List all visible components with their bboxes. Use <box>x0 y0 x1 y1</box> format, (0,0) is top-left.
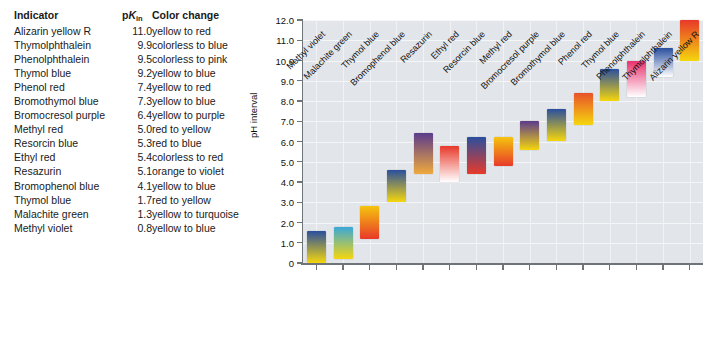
y-axis-tick <box>297 19 303 20</box>
y-axis-tick-label: 2.0 <box>281 217 294 228</box>
y-axis-tick <box>297 40 303 41</box>
cell-pka: 7.4 <box>122 82 152 96</box>
cell-color-change: colorless to red <box>152 152 239 166</box>
cell-color-change: yellow to purple <box>152 110 239 124</box>
table-row: Resazurin5.1orange to violet <box>14 166 239 180</box>
cell-color-change: red to blue <box>152 138 239 152</box>
cell-indicator: Alizarin yellow R <box>14 26 122 40</box>
cell-color-change: yellow to blue <box>152 96 239 110</box>
cell-indicator: Bromothymol blue <box>14 96 122 110</box>
pk-k-italic: K <box>128 9 136 21</box>
cell-indicator: Thymol blue <box>14 195 122 209</box>
chart-bar <box>574 93 593 125</box>
pk-subscript: in <box>136 14 143 23</box>
chart-bar <box>520 121 539 149</box>
x-axis-tick <box>476 263 477 270</box>
x-axis-tick <box>342 263 343 270</box>
x-axis-tick <box>556 263 557 270</box>
table-row: Phenolphthalein9.5colorless to pink <box>14 54 239 68</box>
cell-pka: 11.0 <box>122 26 152 40</box>
cell-indicator: Resorcin blue <box>14 138 122 152</box>
x-axis-tick <box>662 263 663 270</box>
vertical-gridline <box>583 20 584 263</box>
x-axis-tick <box>636 263 637 270</box>
cell-indicator: Bromophenol blue <box>14 181 122 195</box>
table-row: Resorcin blue5.3red to blue <box>14 138 239 152</box>
y-axis-tick-label: 1.0 <box>281 237 294 248</box>
table-row: Thymol blue1.7red to yellow <box>14 195 239 209</box>
chart-bar <box>440 146 459 182</box>
cell-pka: 5.3 <box>122 138 152 152</box>
table-row: Ethyl red5.4colorless to red <box>14 152 239 166</box>
y-axis-tick-label: 4.0 <box>281 177 294 188</box>
cell-pka: 5.4 <box>122 152 152 166</box>
column-header-color-change: Color change <box>152 10 239 26</box>
cell-indicator: Malachite green <box>14 209 122 223</box>
table-row: Alizarin yellow R11.0yellow to red <box>14 26 239 40</box>
indicator-table: Indicator pKin Color change Alizarin yel… <box>14 10 276 237</box>
table-row: Methyl violet0.8yellow to blue <box>14 223 239 237</box>
chart-bar <box>307 231 326 263</box>
indicator-data-table: Indicator pKin Color change Alizarin yel… <box>14 10 239 237</box>
cell-color-change: yellow to blue <box>152 68 239 82</box>
y-axis-tick <box>297 242 303 243</box>
cell-color-change: yellow to red <box>152 26 239 40</box>
table-body: Alizarin yellow R11.0yellow to redThymol… <box>14 26 239 237</box>
y-axis-tick-label: 5.0 <box>281 156 294 167</box>
chart-bar <box>387 170 406 202</box>
table-header-row: Indicator pKin Color change <box>14 10 239 26</box>
y-axis-tick <box>297 141 303 142</box>
cell-indicator: Bromocresol purple <box>14 110 122 124</box>
y-axis-tick <box>297 222 303 223</box>
cell-indicator: Methyl red <box>14 124 122 138</box>
plot-area: 01.02.03.04.05.06.07.08.09.010.011.012.0… <box>302 20 703 263</box>
y-axis-tick-label: 8.0 <box>281 96 294 107</box>
table-row: Bromophenol blue4.1yellow to blue <box>14 181 239 195</box>
x-axis-tick <box>529 263 530 270</box>
chart-bar <box>360 206 379 238</box>
y-axis-tick-label: 3.0 <box>281 197 294 208</box>
x-axis-tick <box>396 263 397 270</box>
table-row: Phenol red7.4yellow to red <box>14 82 239 96</box>
x-axis-tick <box>609 263 610 270</box>
cell-color-change: colorless to blue <box>152 40 239 54</box>
table-row: Bromocresol purple6.4yellow to purple <box>14 110 239 124</box>
vertical-gridline <box>396 20 397 263</box>
cell-pka: 9.9 <box>122 40 152 54</box>
cell-pka: 5.0 <box>122 124 152 138</box>
y-axis-tick-label: 7.0 <box>281 116 294 127</box>
cell-indicator: Thymolphthalein <box>14 40 122 54</box>
cell-indicator: Methyl violet <box>14 223 122 237</box>
cell-pka: 7.3 <box>122 96 152 110</box>
x-axis-tick <box>422 263 423 270</box>
table-row: Bromothymol blue7.3yellow to blue <box>14 96 239 110</box>
x-axis-tick <box>316 263 317 270</box>
cell-pka: 9.5 <box>122 54 152 68</box>
table-row: Thymol blue9.2yellow to blue <box>14 68 239 82</box>
chart-bar <box>414 133 433 174</box>
cell-color-change: yellow to blue <box>152 181 239 195</box>
table-row: Thymolphthalein9.9colorless to blue <box>14 40 239 54</box>
ph-interval-chart: pH interval 01.02.03.04.05.06.07.08.09.0… <box>252 6 716 350</box>
cell-color-change: yellow to blue <box>152 223 239 237</box>
y-axis-tick <box>297 181 303 182</box>
y-axis-tick-label: 6.0 <box>281 136 294 147</box>
cell-color-change: orange to violet <box>152 166 239 180</box>
y-axis-tick <box>297 262 303 263</box>
cell-pka: 6.4 <box>122 110 152 124</box>
y-axis-tick-label: 9.0 <box>281 75 294 86</box>
cell-indicator: Phenolphthalein <box>14 54 122 68</box>
vertical-gridline <box>636 20 637 263</box>
chart-bar <box>467 137 486 173</box>
chart-bar <box>334 227 353 259</box>
column-header-pka: pKin <box>122 10 152 26</box>
y-axis-tick-label: 12.0 <box>276 15 295 26</box>
cell-pka: 1.7 <box>122 195 152 209</box>
cell-color-change: colorless to pink <box>152 54 239 68</box>
y-axis-tick <box>297 161 303 162</box>
x-axis-tick <box>449 263 450 270</box>
table-row: Methyl red5.0red to yellow <box>14 124 239 138</box>
vertical-gridline <box>316 20 317 263</box>
cell-pka: 0.8 <box>122 223 152 237</box>
vertical-gridline <box>556 20 557 263</box>
